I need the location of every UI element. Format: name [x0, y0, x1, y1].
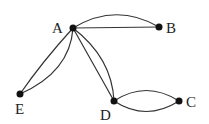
edge-d-c-top	[114, 91, 179, 102]
label-b: B	[166, 20, 176, 36]
edge-a-e-1	[20, 28, 73, 94]
label-a: A	[52, 20, 63, 36]
label-d: D	[100, 107, 111, 123]
edge-a-d-straight	[73, 28, 114, 101]
graph-diagram: A B C D E	[0, 0, 209, 124]
edge-d-c-bottom	[114, 101, 179, 112]
label-c: C	[186, 94, 196, 110]
node-b	[156, 24, 163, 31]
node-c	[176, 98, 183, 105]
node-e	[17, 91, 24, 98]
label-e: E	[15, 101, 24, 117]
edge-a-b-straight	[73, 27, 159, 28]
edge-a-e-2	[20, 28, 73, 94]
edge-a-b-arc	[73, 15, 159, 28]
node-d	[111, 98, 118, 105]
node-a	[70, 25, 77, 32]
